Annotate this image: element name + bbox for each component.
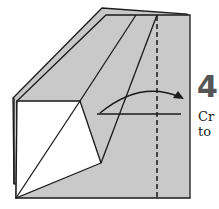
origami-diagram: 4 Cr to [0, 0, 219, 209]
step-number: 4 [197, 72, 217, 102]
step-instruction-line-1: Cr [198, 110, 214, 124]
step-instruction-line-2: to [198, 125, 211, 139]
fold-illustration [0, 0, 219, 209]
